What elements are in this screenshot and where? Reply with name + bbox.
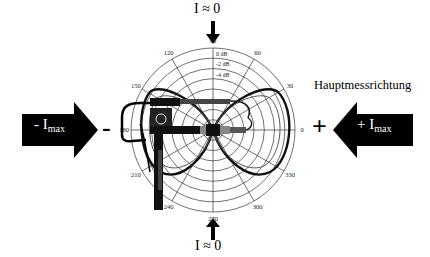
angle-label: 60 <box>254 49 261 56</box>
right-arrow-subscript: max <box>374 123 391 134</box>
left-arrow-label: - Imax <box>34 116 65 134</box>
angle-label: 180 <box>119 126 129 133</box>
bottom-up-arrow-icon <box>206 218 220 240</box>
bottom-current-label: I ≈ 0 <box>195 238 221 254</box>
minus-sign: - <box>102 115 111 141</box>
left-arrow-prefix: - I <box>34 116 48 132</box>
angle-label: 0 <box>300 126 303 133</box>
db-label: 0 dB <box>216 51 228 57</box>
polar-spoke <box>213 130 254 201</box>
angle-label: 30 <box>287 82 294 89</box>
right-arrow-prefix: + I <box>357 116 374 132</box>
angle-label: 330 <box>285 171 295 178</box>
plus-sign: + <box>312 114 327 140</box>
right-arrow-label: + Imax <box>357 116 391 134</box>
main-direction-title: Hauptmessrichtung <box>314 78 411 93</box>
angle-label: 90 <box>210 37 217 44</box>
left-arrow-subscript: max <box>48 123 65 134</box>
angle-label: 300 <box>253 203 263 210</box>
angle-label: 120 <box>164 49 174 56</box>
db-labels: 0 dB-2 dB-4 dB <box>216 51 230 78</box>
db-label: -4 dB <box>216 72 230 78</box>
angle-label: 150 <box>131 82 141 89</box>
angle-label: 210 <box>131 171 141 178</box>
angle-label: 240 <box>164 203 174 210</box>
db-label: -2 dB <box>216 61 230 67</box>
